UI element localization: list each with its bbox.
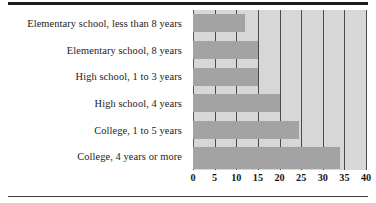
category-label: High school, 1 to 3 years [6, 63, 188, 90]
bar [193, 41, 258, 59]
bar [193, 147, 340, 169]
x-tick-label: 5 [212, 172, 217, 183]
category-label: High school, 4 years [6, 90, 188, 117]
figure: Elementary school, less than 8 years Ele… [0, 0, 376, 203]
bar-chart: Elementary school, less than 8 years Ele… [0, 10, 376, 196]
bar-track [193, 37, 366, 64]
bar [193, 14, 245, 32]
top-rule [8, 2, 368, 5]
bar [193, 94, 280, 112]
x-axis-tick-labels: 0510152025303540 [193, 172, 366, 190]
x-tick-label: 40 [361, 172, 371, 183]
x-tick-label: 25 [296, 172, 306, 183]
category-label: Elementary school, 8 years [6, 37, 188, 64]
category-label: Elementary school, less than 8 years [6, 10, 188, 37]
bar-series [193, 10, 366, 170]
bar-track [193, 10, 366, 37]
category-label: College, 4 years or more [6, 143, 188, 170]
plot-area [193, 10, 366, 170]
bar-track [193, 63, 366, 90]
x-tick-label: 35 [339, 172, 349, 183]
x-tick-label: 15 [253, 172, 263, 183]
category-axis-labels: Elementary school, less than 8 years Ele… [6, 10, 188, 170]
bar [193, 121, 299, 139]
bar-track [193, 117, 366, 144]
bar [193, 68, 258, 86]
gridline [366, 10, 367, 170]
x-tick-label: 10 [231, 172, 241, 183]
category-label: College, 1 to 5 years [6, 117, 188, 144]
x-tick-label: 20 [274, 172, 284, 183]
x-tick-label: 0 [190, 172, 195, 183]
bar-track [193, 143, 366, 170]
bar-track [193, 90, 366, 117]
bottom-rule [8, 196, 368, 197]
x-tick-label: 30 [318, 172, 328, 183]
